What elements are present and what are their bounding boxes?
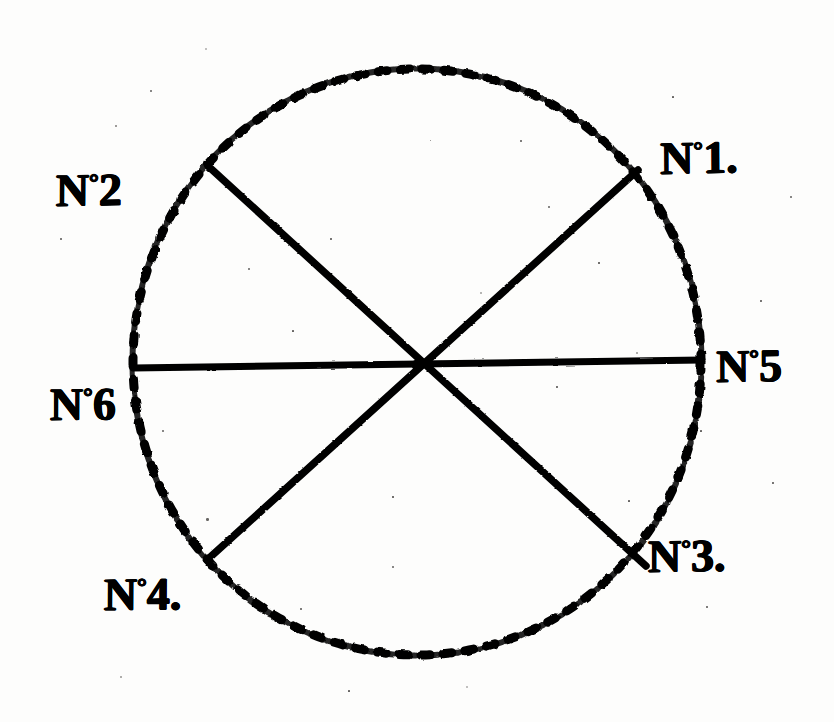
sector-label-no4-prefix: N <box>104 569 137 620</box>
sector-label-no4-ordinal: ° <box>137 574 147 600</box>
sector-label-no3-suffix: . <box>714 530 725 581</box>
sector-label-no2-number: 2 <box>99 164 122 215</box>
sector-label-no1-number: 1 <box>703 131 726 183</box>
sector-label-no3: N°3. <box>648 533 725 580</box>
sector-label-no4-suffix: . <box>170 568 181 619</box>
sector-label-no5-number: 5 <box>759 340 782 391</box>
sector-label-no2-prefix: N <box>56 164 89 216</box>
sector-label-no5-ordinal: ° <box>749 345 759 371</box>
sector-divider-lines <box>133 166 702 566</box>
sector-label-no4: N°4. <box>104 571 181 618</box>
sector-label-no3-prefix: N <box>648 530 681 582</box>
sector-label-no5-prefix: N <box>716 340 749 392</box>
sector-label-no1-ordinal: ° <box>693 137 703 163</box>
sector-label-no3-number: 3 <box>691 530 714 581</box>
sector-label-no2-ordinal: ° <box>89 169 99 195</box>
sector-label-no6-number: 6 <box>93 378 116 429</box>
sector-label-no6-prefix: N <box>50 379 83 430</box>
sector-label-no1: N°1. <box>660 134 737 182</box>
sector-label-no5: N°5 <box>716 343 782 390</box>
figure-root: N°1. N°2 N°3. N°4. N°5 N°6 <box>0 0 834 722</box>
sector-label-no6: N°6 <box>50 381 116 428</box>
sector-label-no4-number: 4 <box>147 568 170 619</box>
sector-label-no2: N°2 <box>56 167 122 214</box>
sector-label-no3-ordinal: ° <box>681 535 691 561</box>
sector-label-no1-prefix: N <box>660 132 693 184</box>
sector-label-no1-suffix: . <box>726 131 737 182</box>
center-intersection <box>412 360 423 371</box>
sector-label-no6-ordinal: ° <box>83 384 93 410</box>
